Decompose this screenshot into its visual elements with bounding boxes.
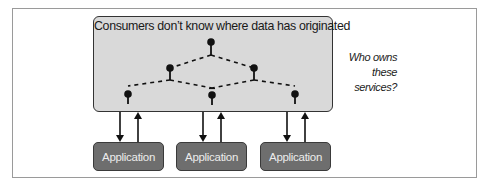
ownership-question: Who owns these services? xyxy=(335,50,397,95)
arrow-up-icon xyxy=(217,112,225,142)
service-node-bottom-right xyxy=(291,90,299,104)
application-box-2: Application xyxy=(176,142,247,171)
arrow-down-icon xyxy=(116,112,124,142)
service-node-bottom-left xyxy=(124,90,132,104)
arrows xyxy=(116,112,309,142)
dashed-connections xyxy=(128,55,295,88)
service-node-bottom-middle xyxy=(208,89,216,106)
arrow-down-icon xyxy=(199,112,207,142)
service-node-mid-left xyxy=(166,64,174,80)
question-line-2: these services? xyxy=(335,65,397,95)
arrow-up-icon xyxy=(134,112,142,142)
application-box-3: Application xyxy=(260,142,331,171)
arrow-up-icon xyxy=(301,112,309,142)
arrow-down-icon xyxy=(283,112,291,142)
service-node-mid-right xyxy=(250,64,258,80)
application-box-1: Application xyxy=(93,142,164,171)
question-line-1: Who owns xyxy=(335,50,397,65)
service-node-top xyxy=(207,38,215,55)
